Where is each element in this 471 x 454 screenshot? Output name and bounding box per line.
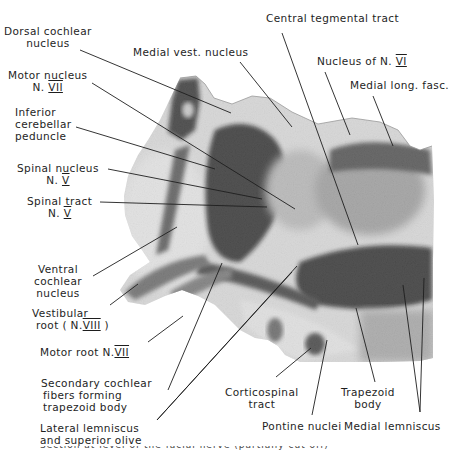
label-line: nucleus	[4, 37, 92, 49]
label-line: root ( N.VIII )	[32, 319, 109, 331]
label-line: cochlear	[34, 275, 82, 287]
label-line: Motor nucleus	[8, 69, 87, 81]
label-line: peduncle	[15, 130, 72, 142]
label-line: cerebellar	[15, 118, 72, 130]
leader-motor-root-vii	[148, 316, 183, 342]
label-line: Medial lemniscus	[344, 420, 441, 432]
label-line: nucleus	[34, 287, 82, 299]
label-line: Inferior	[15, 106, 72, 118]
label-line: N. V	[17, 174, 99, 186]
label-line: Corticospinal	[225, 386, 299, 398]
label-lateral-lemniscus-superior-olive: Lateral lemniscus and superior olive	[40, 422, 142, 446]
label-line: Ventral	[34, 263, 82, 275]
label-line: Secondary cochlear	[41, 377, 152, 389]
label-line: fibers forming	[41, 389, 152, 401]
label-line: Medial long. fasc.	[350, 79, 449, 91]
label-medial-long-fasc: Medial long. fasc.	[350, 79, 449, 91]
label-inferior-cerebellar-peduncle: Inferior cerebellar peduncle	[15, 106, 72, 142]
label-medial-vest-nucleus: Medial vest. nucleus	[133, 46, 248, 58]
label-motor-root-n-vii: Motor root N.VII	[40, 346, 129, 358]
roman-numeral: V	[62, 174, 70, 186]
label-motor-nucleus-n-vii: Motor nucleus N. VII	[8, 69, 87, 93]
roman-numeral: VII	[114, 346, 129, 358]
label-line: tract	[225, 398, 299, 410]
label-line: and superior olive	[40, 434, 142, 446]
caption-text: Section at level of the facial nerve (pa…	[40, 446, 329, 450]
roman-numeral: V	[64, 207, 72, 219]
label-line: Dorsal cochlear	[4, 25, 92, 37]
label-line: Vestibular	[32, 307, 109, 319]
figure-caption-cutoff: Section at level of the facial nerve (pa…	[0, 446, 471, 454]
label-line: Trapezoid	[341, 386, 395, 398]
label-line: Lateral lemniscus	[40, 422, 142, 434]
label-pontine-nuclei: Pontine nuclei	[262, 420, 342, 432]
label-line: body	[341, 398, 395, 410]
label-ventral-cochlear-nucleus: Ventral cochlear nucleus	[34, 263, 82, 299]
label-central-tegmental-tract: Central tegmental tract	[266, 12, 399, 24]
label-dorsal-cochlear-nucleus: Dorsal cochlear nucleus	[4, 25, 92, 49]
label-line: Nucleus of N.	[317, 55, 392, 67]
roman-numeral: VIII	[83, 319, 101, 331]
label-line: trapezoid body	[41, 401, 152, 413]
label-line: Spinal nucleus	[17, 162, 99, 174]
label-line: N. VII	[8, 81, 87, 93]
roman-numeral: VII	[48, 81, 63, 93]
label-nucleus-of-n-vi: Nucleus of N. VI	[317, 55, 407, 67]
label-line: Central tegmental tract	[266, 12, 399, 24]
tissue-section	[110, 70, 440, 370]
roman-numeral: VI	[396, 55, 407, 67]
label-spinal-nucleus-n-v: Spinal nucleus N. V	[17, 162, 99, 186]
label-line: Spinal tract	[27, 195, 92, 207]
label-medial-lemniscus: Medial lemniscus	[344, 420, 441, 432]
leader-dorsal-cochlear	[80, 50, 231, 113]
label-secondary-cochlear-fibers: Secondary cochlear fibers forming trapez…	[41, 377, 152, 413]
label-line: N. V	[27, 207, 92, 219]
label-line: Pontine nuclei	[262, 420, 342, 432]
label-trapezoid-body: Trapezoid body	[341, 386, 395, 410]
label-vestibular-root-n-viii: Vestibular root ( N.VIII )	[32, 307, 109, 331]
label-line: Medial vest. nucleus	[133, 46, 248, 58]
label-corticospinal-tract: Corticospinal tract	[225, 386, 299, 410]
label-spinal-tract-n-v: Spinal tract N. V	[27, 195, 92, 219]
